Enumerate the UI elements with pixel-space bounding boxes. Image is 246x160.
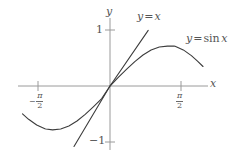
annotation-operator: = [143, 10, 154, 23]
fraction-stack: π 2 [176, 92, 183, 110]
sine-tangent-figure: y x 1 −1 − π 2 π 2 y=x y=sinx [0, 0, 246, 160]
fraction-numerator: π [176, 92, 183, 100]
annotation-y-equals-x: y=x [137, 11, 161, 22]
annotation-function-name: sin [203, 32, 219, 45]
y-axis-label: y [106, 6, 112, 17]
fraction-denominator: 2 [36, 102, 43, 110]
data-curves-group [23, 30, 204, 146]
annotation-y-equals-sin-x: y=sinx [186, 33, 227, 44]
annotation-rhs: x [154, 10, 160, 23]
x-tick-label-positive-half-pi: π 2 [176, 92, 183, 110]
minus-sign: − [29, 97, 36, 106]
fraction-numerator: π [36, 92, 43, 100]
y-tick-label-negative-one: −1 [89, 135, 105, 146]
fraction-stack: π 2 [36, 92, 43, 110]
annotation-argument: x [221, 32, 227, 45]
x-axis-label: x [210, 78, 216, 89]
y-tick-label-one: 1 [96, 24, 103, 35]
x-tick-label-negative-half-pi: − π 2 [29, 92, 43, 110]
sine-curve [23, 46, 204, 130]
annotation-operator: = [192, 32, 203, 45]
axes-group [18, 18, 208, 150]
fraction-denominator: 2 [176, 102, 183, 110]
tangent-line-y-equals-x [74, 30, 148, 146]
